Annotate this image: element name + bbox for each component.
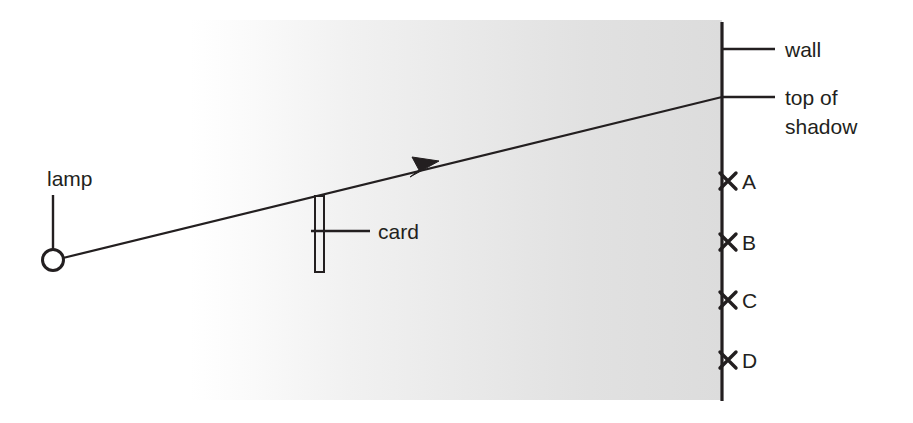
marker-b: B (720, 231, 756, 254)
top-of-shadow-label-line1: top of (785, 86, 838, 109)
marker-a-label: A (742, 170, 756, 193)
diagram-canvas: lamp card wall top of shadow A B C (0, 0, 913, 423)
lamp-label: lamp (47, 167, 93, 190)
lamp-circle-icon (43, 250, 64, 271)
marker-d-label: D (742, 349, 757, 372)
optics-shadow-diagram: lamp card wall top of shadow A B C (0, 0, 913, 423)
top-of-shadow-label-line2: shadow (785, 115, 858, 138)
marker-c: C (720, 289, 757, 312)
marker-b-label: B (742, 231, 756, 254)
marker-a: A (720, 170, 756, 193)
marker-c-label: C (742, 289, 757, 312)
card-shape (315, 196, 324, 272)
shaded-region (190, 20, 722, 400)
marker-d: D (720, 349, 757, 372)
wall-label: wall (784, 38, 821, 61)
card-label: card (378, 220, 419, 243)
